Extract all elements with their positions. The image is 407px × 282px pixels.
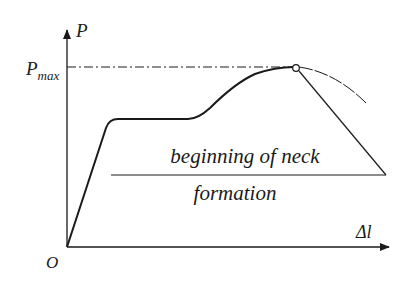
annotation-line-1: beginning of neck [170,144,320,168]
peak-point-marker [293,65,300,72]
hypothetical-continuation-curve [299,67,366,103]
pmax-label: Pmax [25,58,59,83]
origin-label: O [46,253,58,272]
pmax-label-sub: max [38,68,60,83]
pmax-label-main: P [25,58,38,79]
load-elongation-diagram: P Pmax Δl O beginning of neck formation [0,0,407,282]
y-axis-label: P [75,20,88,41]
annotation-line-2: formation [194,181,277,205]
x-axis-label: Δl [355,222,372,242]
